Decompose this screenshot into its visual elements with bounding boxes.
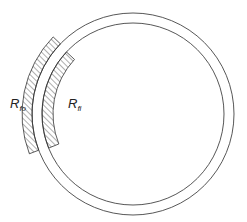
tube-outer-wall [32,13,234,215]
outer-fouling-label: Rfo [10,97,26,113]
tube-inner-wall [42,23,224,205]
inner-fouling-label: Rfi [68,97,81,113]
tube-diagram [0,0,247,222]
